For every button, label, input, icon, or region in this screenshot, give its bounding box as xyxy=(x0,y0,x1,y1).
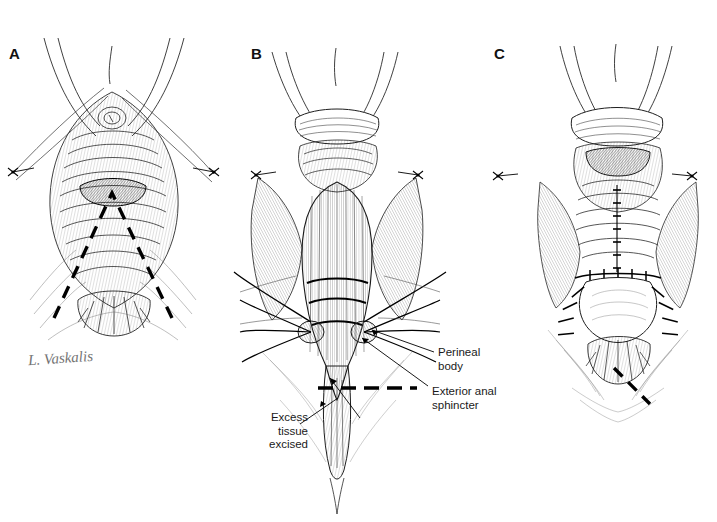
traction-suture-left-c xyxy=(493,172,518,180)
illustration-artwork xyxy=(0,0,717,522)
traction-suture-right-a xyxy=(193,168,219,176)
panel-letter-a: A xyxy=(9,45,20,62)
figure-canvas: A B C Perineal body Exterior anal sphinc… xyxy=(0,0,717,522)
leader-perineal-body xyxy=(372,330,434,352)
panel-c-artwork xyxy=(493,44,698,422)
label-exterior-anal-sphincter: Exterior anal sphincter xyxy=(432,385,497,412)
label-excess-tissue-excised: Excess tissue excised xyxy=(256,411,308,452)
panel-letter-c: C xyxy=(494,45,505,62)
panel-a-artwork xyxy=(8,38,219,340)
traction-suture-right-b xyxy=(398,171,423,179)
traction-suture-right-c xyxy=(672,172,697,180)
traction-suture-left-a xyxy=(8,168,34,176)
reconstructed-perineal-body xyxy=(579,278,656,343)
panel-letter-b: B xyxy=(251,45,262,62)
label-perineal-body: Perineal body xyxy=(438,346,480,373)
leader-exterior-anal-sphincter xyxy=(362,338,428,386)
traction-suture-left-b xyxy=(251,171,276,179)
